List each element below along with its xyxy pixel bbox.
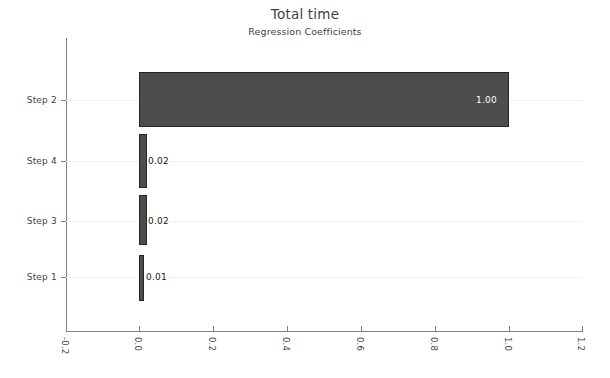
chart-figure: Total time Regression Coefficients -0.2 … bbox=[0, 0, 610, 378]
x-axis-tick bbox=[66, 326, 67, 332]
bar-value-step-1: 0.01 bbox=[146, 272, 167, 282]
y-axis-tick bbox=[61, 221, 66, 222]
y-axis-tick bbox=[61, 100, 66, 101]
y-axis-tick-label-step-3: Step 3 bbox=[27, 216, 57, 226]
bar-step-2[interactable] bbox=[139, 72, 509, 127]
bar-value-step-2: 1.00 bbox=[476, 95, 497, 105]
x-axis-tick bbox=[435, 326, 436, 332]
x-axis-tick-label: 1.0 bbox=[503, 337, 513, 351]
x-axis-tick bbox=[213, 326, 214, 332]
y-axis-spine bbox=[66, 38, 67, 332]
x-axis-tick bbox=[582, 326, 583, 332]
x-axis-tick bbox=[139, 326, 140, 332]
y-axis-tick-label-step-2: Step 2 bbox=[27, 95, 57, 105]
x-axis-tick-label: 0.0 bbox=[133, 337, 143, 351]
bar-step-3[interactable] bbox=[139, 195, 147, 245]
x-axis-tick-label: 0.6 bbox=[355, 337, 365, 351]
y-axis-tick bbox=[61, 277, 66, 278]
x-axis-tick bbox=[361, 326, 362, 332]
y-axis-tick-label-step-4: Step 4 bbox=[27, 156, 57, 166]
plot-area: -0.2 0.0 0.2 0.4 0.6 0.8 1.0 1.2 Step 2 … bbox=[66, 38, 583, 332]
bar-step-1[interactable] bbox=[139, 255, 144, 301]
x-axis-tick bbox=[509, 326, 510, 332]
bar-value-step-4: 0.02 bbox=[148, 156, 169, 166]
x-axis-tick-label: 0.2 bbox=[207, 337, 217, 351]
x-axis-tick-label: -0.2 bbox=[60, 337, 70, 354]
x-axis-tick-label: 0.8 bbox=[429, 337, 439, 351]
x-axis-spine bbox=[66, 331, 583, 332]
y-axis-tick-label-step-1: Step 1 bbox=[27, 272, 57, 282]
x-axis-tick-label: 0.4 bbox=[281, 337, 291, 351]
chart-title: Total time bbox=[0, 6, 610, 22]
x-axis-tick bbox=[287, 326, 288, 332]
bar-value-step-3: 0.02 bbox=[148, 216, 169, 226]
x-axis-tick-label: 1.2 bbox=[576, 337, 586, 351]
bar-step-4[interactable] bbox=[139, 134, 147, 188]
chart-subtitle: Regression Coefficients bbox=[0, 26, 610, 37]
y-axis-tick bbox=[61, 161, 66, 162]
